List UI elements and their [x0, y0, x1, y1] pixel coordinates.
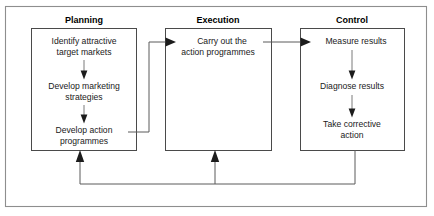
column-title-control: Control	[336, 15, 368, 25]
column-title-execution: Execution	[196, 15, 239, 25]
execution-node-carry-out-line-2: action programmes	[181, 47, 255, 57]
planning-node-develop-marketing-strategies-line-2: strategies	[65, 92, 102, 102]
planning-node-develop-action-programmes-line-2: programmes	[60, 136, 108, 146]
planning-node-identify-markets-line-2: target markets	[57, 47, 112, 57]
planning-execution-control-diagram: Planning Execution Control Identify attr…	[0, 0, 434, 216]
control-node-measure-results: Measure results	[325, 36, 386, 46]
control-node-take-corrective-action-line-2: action	[341, 130, 364, 140]
execution-node-carry-out-line-1: Carry out the	[197, 36, 247, 46]
diagram-canvas: Planning Execution Control Identify attr…	[0, 0, 434, 216]
flow-feedback-loop	[76, 150, 355, 184]
control-node-take-corrective-action-line-1: Take corrective	[323, 119, 381, 129]
column-title-planning: Planning	[65, 15, 103, 25]
planning-node-develop-action-programmes-line-1: Develop action	[56, 125, 113, 135]
planning-node-develop-marketing-strategies-line-1: Develop marketing	[48, 81, 120, 91]
planning-node-identify-markets-line-1: Identify attractive	[52, 36, 117, 46]
control-node-diagnose-results: Diagnose results	[320, 81, 384, 91]
